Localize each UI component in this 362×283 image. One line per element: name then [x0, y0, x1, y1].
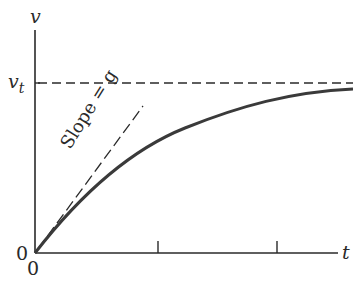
y-axis-label: v — [30, 5, 41, 27]
velocity-time-diagram: v t vt 0 0 Slope = g — [0, 0, 362, 283]
x-axis-label: t — [342, 241, 350, 263]
terminal-velocity-label: vt — [8, 70, 25, 96]
slope-annotation: Slope = g — [56, 65, 121, 152]
initial-slope-line — [38, 106, 143, 249]
x-origin-label: 0 — [27, 257, 39, 279]
